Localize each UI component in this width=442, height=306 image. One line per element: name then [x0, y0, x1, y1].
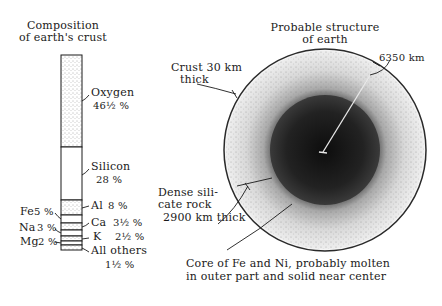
segment-others — [61, 245, 82, 250]
value-oxygen: 46½ % — [93, 100, 129, 112]
value-al: 8 % — [108, 200, 128, 212]
core — [270, 95, 380, 205]
label-al: Al — [91, 200, 103, 212]
segment-ca — [61, 223, 82, 230]
segment-k — [61, 236, 82, 241]
label-silicon: Silicon — [91, 161, 130, 173]
segment-silicon — [61, 147, 82, 200]
value-ca: 3½ % — [113, 217, 143, 229]
label-k: K — [93, 231, 101, 243]
value-silicon: 28 % — [96, 174, 122, 186]
core-label-line2: in outer part and solid near center — [186, 271, 386, 283]
value-k: 2½ % — [115, 231, 145, 243]
label-oxygen: Oxygen — [91, 87, 134, 99]
label-mg: Mg — [20, 236, 39, 248]
segment-al — [61, 200, 82, 215]
label-na: Na — [19, 222, 36, 234]
column-title-line2: of earth's crust — [8, 32, 118, 44]
label-all-others: All others — [91, 245, 147, 257]
value-all-others: 1½ % — [105, 259, 135, 271]
earth-title-line2: of earth — [250, 34, 400, 46]
core-label-line1: Core of Fe and Ni, probably molten — [186, 258, 390, 270]
value-mg: 2 % — [38, 236, 58, 248]
segment-mg — [61, 241, 82, 245]
segment-oxygen — [61, 55, 82, 147]
crust-label-line2: thick — [180, 74, 209, 86]
label-fe: Fe — [20, 206, 34, 218]
crust-composition-column — [61, 55, 82, 250]
mantle-label-line2: cate rock — [158, 199, 212, 211]
mantle-label-line3: 2900 km thick — [163, 212, 246, 224]
segment-na — [61, 230, 82, 236]
label-ca: Ca — [91, 217, 106, 229]
earth-cross-section — [224, 49, 426, 251]
value-na: 3 % — [37, 222, 57, 234]
radius-label: 6350 km — [379, 52, 425, 64]
segment-fe — [61, 215, 82, 223]
value-fe: 5 % — [34, 206, 54, 218]
